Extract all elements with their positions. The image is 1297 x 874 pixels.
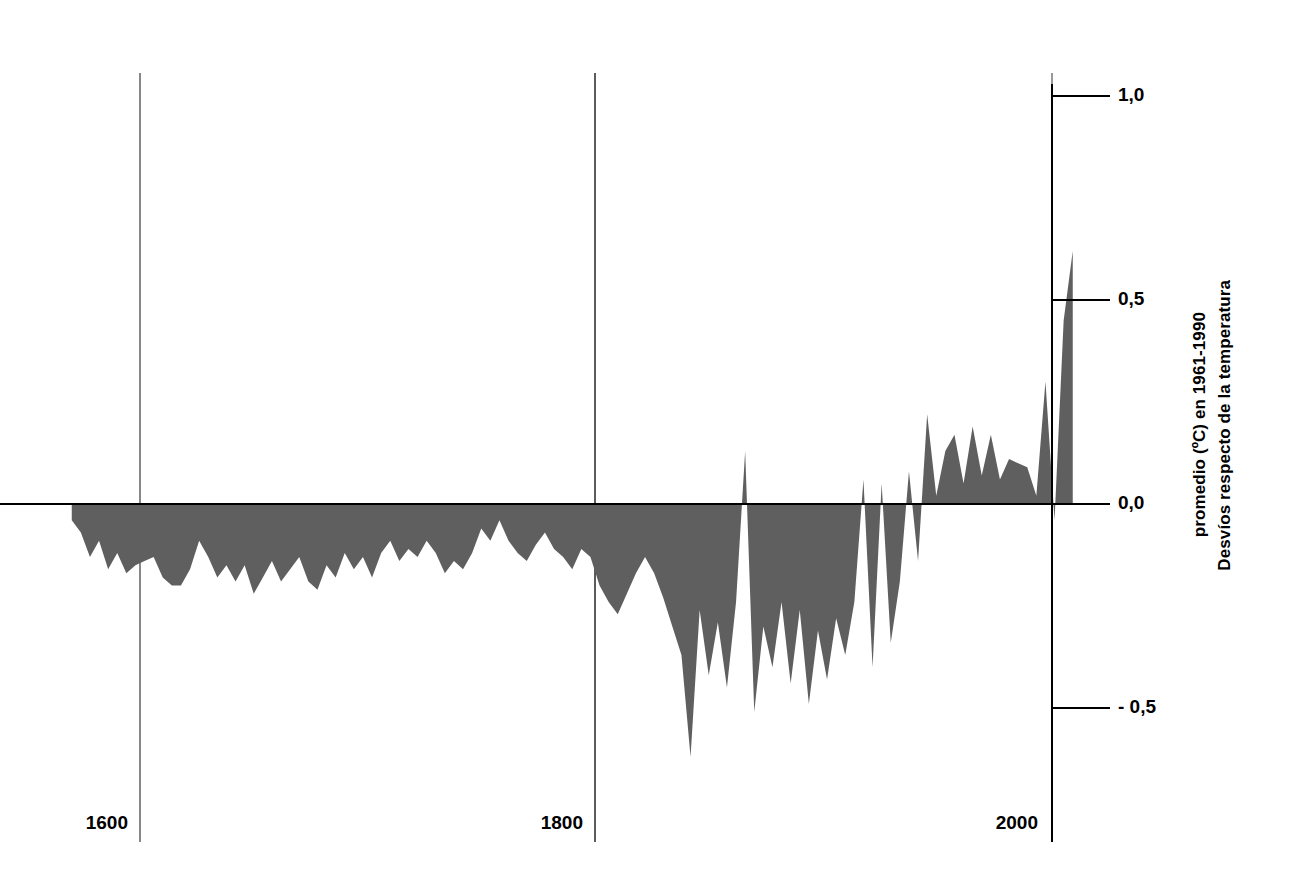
plot-background <box>0 0 1297 874</box>
x-tick-label: 1600 <box>64 812 128 834</box>
y-tick-label: 0,5 <box>1118 288 1144 310</box>
x-tick-label: 1800 <box>519 812 583 834</box>
y-axis-title-line-2: promedio (ºC) en 1961-1990 <box>1188 312 1213 537</box>
y-tick-label: - 0,5 <box>1118 696 1156 718</box>
y-tick-label: 0,0 <box>1118 492 1144 514</box>
x-tick-label: 2000 <box>974 812 1038 834</box>
y-tick-label: 1,0 <box>1118 84 1144 106</box>
temperature-anomaly-area-chart <box>0 0 1297 874</box>
chart-figure: 1,00,50,0- 0,5 160018002000 promedio (ºC… <box>0 0 1297 874</box>
y-axis-title-line-1: Desvíos respecto de la temperatura <box>1213 280 1238 571</box>
y-axis-title: promedio (ºC) en 1961-1990 Desvíos respe… <box>1185 225 1241 625</box>
